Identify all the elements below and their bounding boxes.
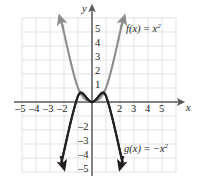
y-tick-2: 2 (95, 66, 100, 77)
function-label-f-exponent: 2 (157, 22, 161, 30)
y-tick-3: 3 (95, 52, 100, 63)
x-axis-label: x (186, 103, 191, 114)
y-tick-neg2: –2 (78, 122, 89, 133)
function-label-f: f(x)=x2 (126, 24, 161, 35)
function-label-f-equals: = (144, 23, 150, 34)
function-label-g-var: −x (153, 143, 165, 154)
x-tick-5: 5 (159, 104, 164, 115)
y-tick-5: 5 (95, 24, 100, 35)
x-tick-neg5: –5 (15, 104, 26, 115)
curve-f-arrow-left (60, 19, 63, 28)
x-tick-neg2: –2 (57, 104, 68, 115)
function-label-g-name: g(x) (124, 143, 141, 154)
x-tick-neg3: –3 (43, 104, 54, 115)
y-axis-label: y (82, 4, 87, 15)
x-tick-2: 2 (117, 104, 122, 115)
y-tick-neg4: –4 (78, 150, 89, 161)
function-label-g-equals: = (144, 143, 150, 154)
y-tick-4: 4 (95, 38, 100, 49)
x-tick-neg4: –4 (29, 104, 40, 115)
y-tick-neg3: –3 (78, 136, 89, 147)
x-tick-3: 3 (131, 104, 136, 115)
function-label-g-exponent: 2 (165, 142, 169, 150)
y-tick-neg5: –5 (78, 164, 89, 175)
function-label-f-name: f(x) (126, 23, 141, 34)
y-tick-1: 1 (95, 80, 100, 91)
function-label-g: g(x)=−x2 (124, 144, 168, 155)
curve-f-arrow-right (121, 19, 124, 28)
x-tick-4: 4 (145, 104, 150, 115)
graph-figure: y x –5 –4 –3 –2 2 3 4 5 5 4 3 2 1 –2 –3 … (0, 0, 198, 184)
